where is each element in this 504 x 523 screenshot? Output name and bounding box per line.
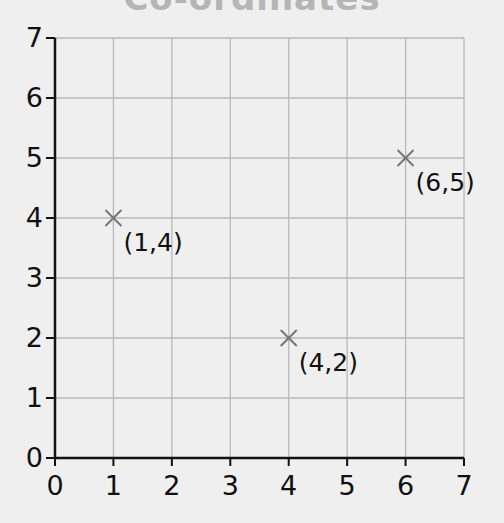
point-label: (6,5) (416, 168, 475, 197)
point-label: (1,4) (123, 228, 182, 257)
x-tick-label: 5 (339, 470, 356, 501)
y-axis-ticks: 01234567 (26, 22, 55, 473)
x-tick-label: 3 (222, 470, 239, 501)
data-point: (6,5) (398, 150, 475, 197)
y-tick-label: 1 (26, 382, 43, 413)
y-tick-label: 0 (26, 442, 43, 473)
x-tick-label: 7 (455, 470, 472, 501)
x-tick-label: 0 (46, 470, 63, 501)
point-label: (4,2) (299, 348, 358, 377)
axes (54, 38, 464, 459)
x-tick-label: 6 (397, 470, 414, 501)
data-point: (1,4) (105, 210, 182, 257)
y-tick-label: 2 (26, 322, 43, 353)
x-tick-label: 4 (280, 470, 297, 501)
data-point: (4,2) (281, 330, 358, 377)
data-points: (1,4)(4,2)(6,5) (105, 150, 474, 377)
scatter-chart: 01234567 01234567 (1,4)(4,2)(6,5) (0, 0, 504, 523)
x-tick-label: 2 (163, 470, 180, 501)
y-tick-label: 5 (26, 142, 43, 173)
x-axis-ticks: 01234567 (46, 458, 472, 501)
y-tick-label: 7 (26, 22, 43, 53)
x-tick-label: 1 (105, 470, 122, 501)
y-tick-label: 3 (26, 262, 43, 293)
grid-lines (55, 38, 464, 458)
y-tick-label: 4 (26, 202, 43, 233)
y-tick-label: 6 (26, 82, 43, 113)
